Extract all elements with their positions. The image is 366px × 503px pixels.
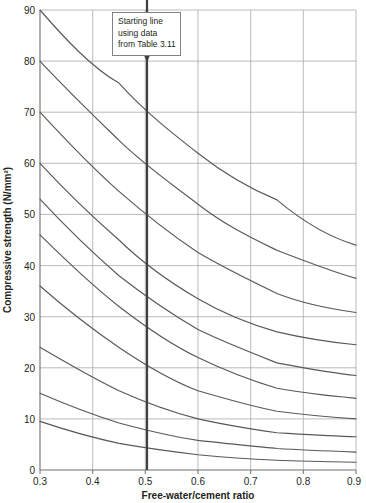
callout-line-1: Starting line <box>118 16 176 28</box>
starting-line-callout: Starting line using data from Table 3.11 <box>112 12 181 56</box>
x-tick-label-0-8: 0.8 <box>296 476 310 487</box>
y-tick-label-90: 90 <box>24 5 36 16</box>
starting-line-annotation <box>143 0 152 470</box>
y-tick-label-80: 80 <box>24 56 36 67</box>
y-tick-label-0: 0 <box>29 465 35 476</box>
x-gridlines <box>93 10 304 470</box>
x-tick-label-0-3: 0.3 <box>33 476 47 487</box>
x-tickmarks <box>40 470 356 474</box>
x-tick-label-0-6: 0.6 <box>191 476 205 487</box>
x-axis-title: Free-water/cement ratio <box>142 490 255 501</box>
y-tick-label-40: 40 <box>24 261 36 272</box>
y-tick-labels: 90 80 70 60 50 40 30 20 10 0 <box>24 5 36 476</box>
y-tick-label-10: 10 <box>24 414 36 425</box>
chart-plot-svg: 90 80 70 60 50 40 30 20 10 0 0.3 0.4 0.5… <box>0 0 366 503</box>
y-tick-label-50: 50 <box>24 209 36 220</box>
x-tick-label-0-5: 0.5 <box>138 476 152 487</box>
y-tick-label-30: 30 <box>24 312 36 323</box>
y-axis-title: Compressive strength (N/mm²) <box>2 167 13 313</box>
chart-container: 90 80 70 60 50 40 30 20 10 0 0.3 0.4 0.5… <box>0 0 366 503</box>
x-tick-label-0-7: 0.7 <box>244 476 258 487</box>
y-tick-label-20: 20 <box>24 363 36 374</box>
y-tick-label-60: 60 <box>24 158 36 169</box>
callout-line-2: using data <box>118 28 176 40</box>
callout-line-3: from Table 3.11 <box>118 39 176 51</box>
x-tick-label-0-9: 0.9 <box>347 476 361 487</box>
y-tick-label-70: 70 <box>24 107 36 118</box>
x-tick-labels: 0.3 0.4 0.5 0.6 0.7 0.8 0.9 <box>33 476 361 487</box>
x-tick-label-0-4: 0.4 <box>86 476 100 487</box>
